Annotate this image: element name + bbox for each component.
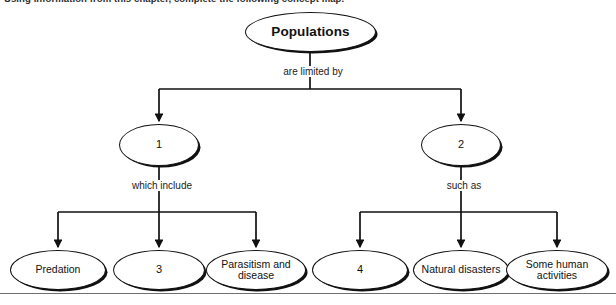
node-parasitism-and-disease-label: Parasitism and disease xyxy=(207,259,305,282)
node-blank-2-label: 2 xyxy=(454,139,468,151)
node-blank-1-label: 1 xyxy=(152,139,166,151)
node-predation[interactable]: Predation xyxy=(10,250,106,290)
edge-label-are-limited-by: are limited by xyxy=(258,66,368,77)
node-populations-label: Populations xyxy=(267,25,353,40)
node-blank-3[interactable]: 3 xyxy=(113,250,205,290)
node-some-human-activities[interactable]: Some human activities xyxy=(506,250,608,290)
node-populations[interactable]: Populations xyxy=(245,12,376,52)
node-natural-disasters-label: Natural disasters xyxy=(418,264,505,275)
node-blank-1[interactable]: 1 xyxy=(119,124,199,166)
node-natural-disasters[interactable]: Natural disasters xyxy=(413,250,509,290)
concept-map-worksheet: Using information from this chapter, com… xyxy=(0,0,616,305)
bottom-divider xyxy=(0,293,616,294)
node-some-human-activities-label: Some human activities xyxy=(507,259,607,282)
edge-label-which-include: which include xyxy=(112,180,212,191)
node-predation-label: Predation xyxy=(32,264,85,275)
node-blank-2[interactable]: 2 xyxy=(421,124,501,166)
edge-label-such-as: such as xyxy=(422,180,506,191)
node-blank-4[interactable]: 4 xyxy=(312,250,408,290)
node-parasitism-and-disease[interactable]: Parasitism and disease xyxy=(206,250,306,290)
node-blank-3-label: 3 xyxy=(152,264,166,276)
node-blank-4-label: 4 xyxy=(353,264,367,276)
